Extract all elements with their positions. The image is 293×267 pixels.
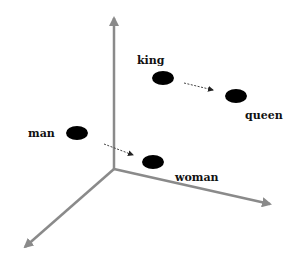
label-queen: queen: [245, 109, 283, 122]
man-to-woman-arrow: [104, 144, 133, 155]
label-woman: woman: [174, 171, 219, 184]
king-to-queen-arrow: [184, 83, 213, 90]
label-king: king: [137, 54, 165, 67]
point-king: [152, 71, 174, 85]
point-woman: [142, 155, 164, 169]
word-vector-diagram: king queen man woman: [0, 0, 293, 267]
label-man: man: [28, 127, 55, 140]
point-queen: [225, 89, 247, 103]
point-man: [66, 126, 88, 140]
z-axis: [25, 169, 114, 247]
